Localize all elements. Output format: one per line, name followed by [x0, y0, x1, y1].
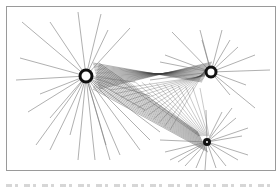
spoke-line [211, 72, 255, 108]
spoke-line [211, 55, 255, 72]
link-line [95, 81, 205, 146]
spoke-line [207, 136, 242, 142]
spoke-line [86, 76, 95, 160]
spoke-line [170, 142, 207, 160]
figure-caption-cropped [6, 184, 276, 189]
spoke-line [207, 118, 236, 142]
spoke-line [207, 142, 238, 160]
hub-spokes [16, 12, 270, 170]
spoke-line [70, 76, 86, 135]
hub-bottom-node [205, 140, 210, 145]
spoke-line [206, 110, 207, 142]
link-line [97, 71, 201, 138]
spoke-line [207, 142, 248, 155]
spoke-line [22, 22, 86, 76]
spoke-line [36, 76, 86, 145]
spoke-line [16, 76, 86, 80]
cross-links [93, 62, 212, 152]
spoke-line [211, 70, 270, 72]
network-diagram-figure [0, 0, 280, 189]
spoke-line [211, 30, 222, 72]
link-line [98, 68, 200, 136]
spoke-line [78, 12, 86, 76]
link-line [97, 74, 203, 141]
link-line [97, 72, 202, 139]
spoke-line [207, 142, 226, 166]
hub-large-node [80, 70, 92, 82]
spoke-line [207, 108, 232, 142]
spoke-line [78, 76, 86, 160]
spoke-line [207, 142, 216, 168]
link-line [148, 72, 205, 115]
link-line [200, 88, 209, 136]
network-graph [0, 0, 280, 189]
link-line [178, 86, 206, 136]
hub-right-node [206, 67, 216, 77]
